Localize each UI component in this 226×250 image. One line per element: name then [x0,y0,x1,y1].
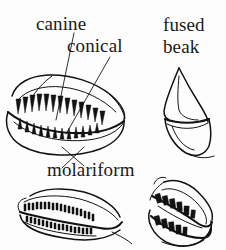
beak-lower-inner [172,126,194,150]
upper-tooth-row [16,94,105,125]
jaw-posterior-stroke [112,232,132,244]
figure-plate: canine conical fused beak molariform [0,0,226,250]
beak-commissure-line [165,119,209,123]
lower-tooth-row [18,118,99,139]
canine-conical-jaw-svg [0,50,135,165]
beak-upper-outline [164,68,179,119]
beak-upper-back [179,68,208,122]
molariform-jaw-right-svg [142,176,226,250]
illustration-molariform-jaw-left [12,182,132,250]
beak-lower-outline [165,119,211,155]
lower-tooth-row [154,215,187,235]
illustration-fused-beak [152,62,226,162]
molariform-jaw-left-svg [12,182,132,250]
upper-tooth-row [155,193,195,218]
illustration-molariform-jaw-right [142,176,226,250]
beak-commissure-inner [167,123,208,128]
upper-jaw-outline [30,189,120,217]
upper-jaw-outline [12,75,125,120]
fused-beak-svg [152,62,226,162]
illustration-canine-conical-jaw [0,50,135,165]
jaw-tip-stroke [154,177,166,184]
